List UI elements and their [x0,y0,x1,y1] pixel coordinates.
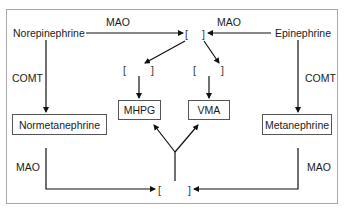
arrow-stem-to-mhpg [154,125,175,152]
arrow-metanephrine-to-bottom-blank [194,148,298,189]
node-mhpg: MHPG [118,100,161,120]
arrow-top-blank-to-left-blank [145,41,185,63]
node-normetanephrine: Normetanephrine [12,114,107,135]
left-blank-close: ] [151,64,154,76]
enzyme-mao-bottom-left: MAO [16,161,40,173]
bottom-blank-close: ] [188,184,191,196]
bottom-blank-open: [ [158,184,161,196]
node-metanephrine: Metanephrine [262,114,332,135]
enzyme-mao-top-right: MAO [217,16,241,28]
top-blank-open: [ [185,28,188,40]
arrow-normetanephrine-to-bottom-blank [46,148,155,189]
top-blank-close: ] [202,28,205,40]
right-blank-close: ] [221,64,224,76]
enzyme-comt-right: COMT [305,72,336,84]
enzyme-mao-top-left: MAO [106,16,130,28]
enzyme-comt-left: COMT [12,72,43,84]
arrow-top-blank-to-right-blank [204,41,219,63]
node-vma: VMA [188,100,230,120]
enzyme-mao-bottom-right: MAO [307,161,331,173]
node-norepinephrine: Norepinephrine [13,27,85,39]
right-blank-open: [ [193,64,196,76]
left-blank-open: [ [123,64,126,76]
node-epinephrine: Epinephrine [275,27,331,39]
arrow-stem-to-vma [175,125,198,152]
